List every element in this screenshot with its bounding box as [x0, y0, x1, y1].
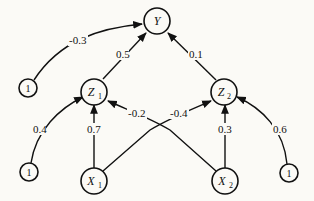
weight-label: 0.1 [189, 48, 203, 60]
node-subscript: 2 [229, 181, 233, 190]
bias-label: 1 [26, 83, 31, 94]
weight-label: -0.2 [128, 107, 145, 119]
node-subscript: 1 [98, 181, 102, 190]
edge-x1-to-z2 [103, 101, 211, 171]
node-subscript: 2 [227, 92, 231, 101]
node-z2: Z 2 [211, 79, 237, 105]
weight-label: 0.6 [273, 123, 287, 135]
network-diagram: -0.3 0.5 0.1 0.4 0.7 -0.2 -0.4 0.3 0.6 Y… [0, 0, 314, 201]
bias-node-z2: 1 [280, 164, 298, 182]
node-x2: X 2 [212, 168, 238, 194]
node-subscript: 1 [98, 92, 102, 101]
bias-label: 1 [27, 167, 32, 178]
node-y: Y [144, 8, 170, 34]
node-label: X [217, 174, 226, 188]
weight-label: 0.3 [218, 123, 232, 135]
bias-node-y: 1 [19, 79, 37, 97]
edge-x2-to-z1 [108, 101, 216, 171]
node-z1: Z 1 [81, 79, 107, 105]
edge-labels: -0.3 0.5 0.1 0.4 0.7 -0.2 -0.4 0.3 0.6 [32, 34, 288, 135]
bias-label: 1 [287, 168, 292, 179]
bias-node-z1: 1 [20, 163, 38, 181]
node-label: Z [218, 85, 225, 99]
node-x1: X 1 [81, 168, 107, 194]
node-label: X [86, 174, 95, 188]
weight-label: 0.7 [87, 123, 101, 135]
weight-label: 0.5 [116, 48, 130, 60]
node-label: Z [88, 85, 95, 99]
weight-label: -0.3 [69, 34, 87, 46]
weight-label: 0.4 [33, 123, 47, 135]
weight-label: -0.4 [170, 107, 188, 119]
edges [31, 24, 287, 171]
